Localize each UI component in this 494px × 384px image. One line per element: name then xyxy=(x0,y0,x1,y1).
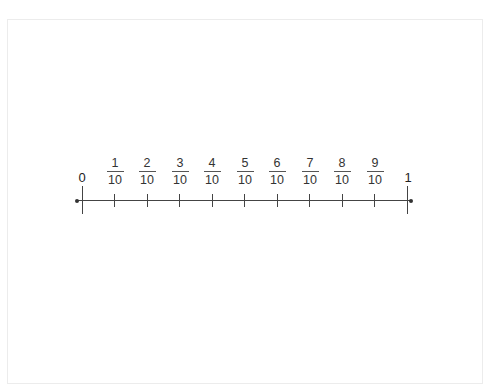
tick-one xyxy=(407,186,408,214)
fraction-label-1-10: 1 10 xyxy=(103,156,127,187)
numerator: 7 xyxy=(298,156,322,170)
numerator: 4 xyxy=(200,156,224,170)
tick-1-10 xyxy=(114,194,115,207)
tick-7-10 xyxy=(309,194,310,207)
fraction-label-2-10: 2 10 xyxy=(135,156,159,187)
fraction-bar xyxy=(269,171,286,172)
label-one: 1 xyxy=(398,170,418,185)
denominator: 10 xyxy=(265,173,289,187)
fraction-label-4-10: 4 10 xyxy=(200,156,224,187)
denominator: 10 xyxy=(363,173,387,187)
tick-9-10 xyxy=(374,194,375,207)
right-arrow-point-icon xyxy=(409,199,413,203)
fraction-bar xyxy=(139,171,156,172)
fraction-bar xyxy=(107,171,124,172)
fraction-bar xyxy=(367,171,384,172)
denominator: 10 xyxy=(200,173,224,187)
tick-zero xyxy=(82,186,83,214)
denominator: 10 xyxy=(330,173,354,187)
numerator: 5 xyxy=(233,156,257,170)
numerator: 6 xyxy=(265,156,289,170)
denominator: 10 xyxy=(233,173,257,187)
denominator: 10 xyxy=(135,173,159,187)
numerator: 8 xyxy=(330,156,354,170)
left-arrow-point-icon xyxy=(75,199,79,203)
tick-6-10 xyxy=(277,194,278,207)
fraction-label-6-10: 6 10 xyxy=(265,156,289,187)
tick-5-10 xyxy=(244,194,245,207)
denominator: 10 xyxy=(103,173,127,187)
numerator: 9 xyxy=(363,156,387,170)
numerator: 2 xyxy=(135,156,159,170)
denominator: 10 xyxy=(168,173,192,187)
fraction-bar xyxy=(334,171,351,172)
fraction-label-3-10: 3 10 xyxy=(168,156,192,187)
label-zero: 0 xyxy=(72,170,92,185)
tick-8-10 xyxy=(342,194,343,207)
tick-2-10 xyxy=(147,194,148,207)
fraction-bar xyxy=(172,171,189,172)
fraction-label-5-10: 5 10 xyxy=(233,156,257,187)
numerator: 3 xyxy=(168,156,192,170)
fraction-label-7-10: 7 10 xyxy=(298,156,322,187)
fraction-bar xyxy=(237,171,254,172)
numerator: 1 xyxy=(103,156,127,170)
fraction-label-9-10: 9 10 xyxy=(363,156,387,187)
denominator: 10 xyxy=(298,173,322,187)
tick-3-10 xyxy=(179,194,180,207)
fraction-bar xyxy=(302,171,319,172)
tick-4-10 xyxy=(212,194,213,207)
fraction-bar xyxy=(204,171,221,172)
fraction-label-8-10: 8 10 xyxy=(330,156,354,187)
